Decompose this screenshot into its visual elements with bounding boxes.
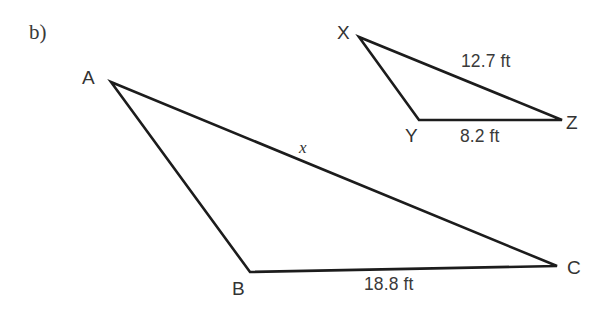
triangle-xyz-shape: [359, 37, 562, 120]
side-label-yz: 8.2 ft: [460, 128, 500, 146]
vertex-label-y: Y: [405, 126, 418, 145]
side-label-xz: 12.7 ft: [461, 53, 510, 71]
vertex-label-x: X: [337, 23, 350, 42]
vertex-label-z: Z: [566, 113, 578, 132]
triangle-abc-shape: [111, 82, 557, 272]
side-label-bc: 18.8 ft: [364, 276, 413, 294]
side-label-ac-unknown: x: [299, 139, 307, 156]
vertex-label-b: B: [232, 279, 245, 298]
vertex-label-a: A: [82, 68, 95, 87]
part-label: b): [29, 22, 47, 43]
vertex-label-c: C: [567, 258, 581, 277]
geometry-figure: b) A B C x 18.8 ft X Y Z 12.7 ft 8.2 ft: [0, 0, 608, 309]
